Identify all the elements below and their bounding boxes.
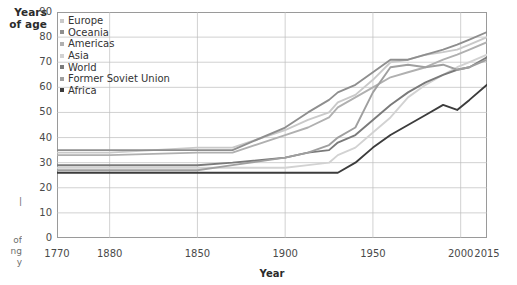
chart-figure: | of ng y Years of age 90807060504030201… <box>0 0 517 285</box>
legend-swatch-icon <box>60 88 64 92</box>
legend-swatch-icon <box>60 30 64 34</box>
y-tick-label-60: 60 <box>26 82 52 92</box>
legend-swatch-icon <box>60 65 64 69</box>
legend-swatch-icon <box>60 54 64 58</box>
legend-label: Former Soviet Union <box>68 73 170 84</box>
y-axis-title-line2: of age <box>9 18 47 30</box>
legend-item-europe[interactable]: Europe <box>60 15 170 27</box>
legend-item-americas[interactable]: Americas <box>60 38 170 50</box>
x-tick-label-1950: 1950 <box>353 249 393 259</box>
legend-label: Africa <box>68 85 97 96</box>
x-tick-label-1770: 1770 <box>37 249 77 259</box>
legend-item-asia[interactable]: Asia <box>60 50 170 62</box>
y-tick-label-30: 30 <box>26 158 52 168</box>
legend-swatch-icon <box>60 19 64 23</box>
x-tick-label-1850: 1850 <box>177 249 217 259</box>
legend-item-oceania[interactable]: Oceania <box>60 27 170 39</box>
y-tick-label-0: 0 <box>26 233 52 243</box>
margin-text-fragment-2: of <box>0 235 22 246</box>
x-tick-label-1900: 1900 <box>265 249 305 259</box>
legend-swatch-icon <box>60 42 64 46</box>
legend-label: Europe <box>68 15 103 26</box>
legend-item-world[interactable]: World <box>60 61 170 73</box>
x-axis-title: Year <box>57 268 487 279</box>
legend-item-former-soviet-union[interactable]: Former Soviet Union <box>60 73 170 85</box>
y-tick-label-80: 80 <box>26 32 52 42</box>
y-tick-label-50: 50 <box>26 107 52 117</box>
y-tick-label-70: 70 <box>26 57 52 67</box>
legend-label: Oceania <box>68 27 109 38</box>
x-tick-label-1880: 1880 <box>90 249 130 259</box>
legend-label: Americas <box>68 38 114 49</box>
margin-text-fragment-4: y <box>0 257 22 268</box>
legend-item-africa[interactable]: Africa <box>60 85 170 97</box>
margin-text-fragment-3: ng <box>0 246 22 257</box>
margin-text-fragment-1: | <box>0 196 22 207</box>
legend-label: Asia <box>68 50 89 61</box>
y-tick-label-40: 40 <box>26 133 52 143</box>
x-tick-label-2015: 2015 <box>467 249 507 259</box>
legend-label: World <box>68 62 97 73</box>
y-tick-label-20: 20 <box>26 183 52 193</box>
legend-swatch-icon <box>60 77 64 81</box>
chart-legend: EuropeOceaniaAmericasAsiaWorldFormer Sov… <box>60 15 170 96</box>
y-tick-label-10: 10 <box>26 208 52 218</box>
y-tick-label-90: 90 <box>26 7 52 17</box>
